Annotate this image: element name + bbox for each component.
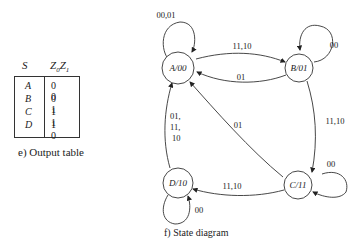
state-A-label: A/00 <box>169 63 187 73</box>
state-B-label: B/01 <box>291 63 308 73</box>
state-D-label: D/10 <box>168 178 188 188</box>
edge-B-C <box>307 81 315 172</box>
edge-label-A-B: 11,10 <box>233 41 252 51</box>
edge-C-C <box>313 172 347 197</box>
edge-label-D-A-line1: 01, <box>170 111 181 121</box>
edge-D-D <box>163 195 190 224</box>
edge-label-C-C: 00 <box>327 159 336 169</box>
edge-label-D-A-line3: 10 <box>172 133 181 143</box>
edge-label-B-B: 00 <box>330 40 339 50</box>
state-diagram: A/00 B/01 C/11 D/10 00,01 11,10 01 00 11… <box>0 0 358 239</box>
edge-label-D-A-line2: 11, <box>170 122 180 132</box>
edge-label-B-C: 11,10 <box>326 116 345 126</box>
edge-label-C-A: 01 <box>234 120 243 130</box>
edge-A-B <box>196 53 285 62</box>
state-diagram-caption: f) State diagram <box>164 227 229 239</box>
edge-label-D-D: 00 <box>195 205 204 215</box>
edge-label-A-A: 00,01 <box>156 10 175 20</box>
state-C-label: C/11 <box>290 180 307 190</box>
edge-label-B-A: 01 <box>237 72 246 82</box>
edge-label-C-D: 11,10 <box>223 181 242 191</box>
